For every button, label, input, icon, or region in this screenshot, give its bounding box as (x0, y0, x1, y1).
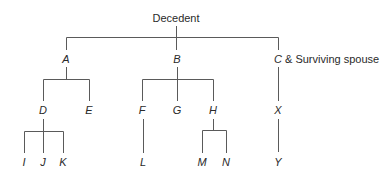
node-x: X (274, 105, 281, 116)
node-m: M (197, 157, 206, 168)
node-d: D (39, 105, 47, 116)
node-c-surviving-spouse: C & Surviving spouse (274, 54, 379, 65)
tree-connectors (0, 0, 391, 177)
node-j: J (40, 157, 46, 168)
node-i: I (22, 157, 25, 168)
node-decedent: Decedent (152, 13, 199, 24)
node-k: K (59, 157, 66, 168)
node-f: F (139, 105, 146, 116)
node-e: E (85, 105, 92, 116)
node-g: G (173, 105, 182, 116)
node-y: Y (274, 157, 281, 168)
node-h: H (209, 105, 217, 116)
node-c-suffix: & Surviving spouse (282, 53, 379, 65)
node-b: B (173, 54, 180, 65)
node-c-letter: C (274, 53, 282, 65)
node-n: N (222, 157, 230, 168)
node-l: L (140, 157, 146, 168)
node-a: A (62, 54, 69, 65)
